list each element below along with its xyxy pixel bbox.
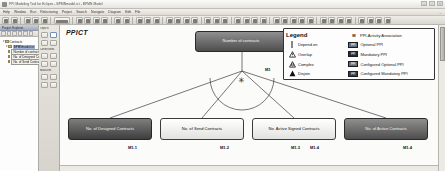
palette-tool-button[interactable]: [41, 53, 48, 59]
window-controls[interactable]: – □ ×: [421, 1, 443, 6]
explorer-tool-3[interactable]: [18, 31, 23, 36]
tree-item-label: Contracts: [10, 40, 23, 44]
toolbar-button-18[interactable]: [144, 17, 151, 24]
palette-section-header[interactable]: Measures: [40, 69, 58, 72]
toolbar-button-15[interactable]: [123, 17, 130, 24]
palette-tool-button[interactable]: [41, 32, 48, 38]
menu-item-refactoring[interactable]: Refactoring: [40, 10, 57, 14]
toolbar-button-41[interactable]: [320, 17, 327, 24]
toolbar-button-46[interactable]: [358, 17, 365, 24]
menu-item-project[interactable]: Project: [62, 10, 73, 14]
toolbar-button-9[interactable]: [76, 17, 83, 24]
toolbar-button-11[interactable]: [93, 17, 100, 24]
horizontal-scrollbar[interactable]: [60, 165, 438, 171]
toolbar-icon-31: [245, 19, 249, 23]
explorer-header: Project Explorer: [0, 25, 38, 31]
toolbar-button-31[interactable]: [243, 17, 250, 24]
explorer-tool-0[interactable]: [1, 31, 6, 36]
toolbar-button-0[interactable]: [2, 17, 9, 24]
toolbar-button-47[interactable]: [367, 17, 374, 24]
minimize-button[interactable]: –: [421, 1, 427, 6]
toolbar-button-12[interactable]: [101, 17, 108, 24]
legend-ppi-badge-icon: PPI: [348, 51, 358, 57]
menu-item-help[interactable]: Help: [3, 10, 10, 14]
toolbar-button-24[interactable]: [191, 17, 198, 24]
vertical-scrollbar-thumb[interactable]: [440, 27, 445, 61]
close-button[interactable]: ×: [437, 1, 443, 6]
palette-section-header[interactable]: Objects: [40, 27, 58, 30]
app-icon: [2, 2, 7, 7]
toolbar-button-30[interactable]: [234, 17, 241, 24]
palette-tool-button[interactable]: [50, 74, 57, 80]
toolbar-button-33[interactable]: [260, 17, 267, 24]
toolbar-button-22[interactable]: [174, 17, 181, 24]
toolbar-button-7[interactable]: [54, 17, 70, 24]
node-number-of-contracts[interactable]: Number of contracts: [195, 31, 287, 52]
palette-row: [41, 32, 57, 38]
toolbar-button-17[interactable]: [136, 17, 143, 24]
toolbar-button-27[interactable]: [213, 17, 220, 24]
toolbar-button-28[interactable]: [221, 17, 228, 24]
menu-item-edit[interactable]: Edit: [125, 10, 131, 14]
node-active-signed-contracts[interactable]: No. Active Signed Contracts: [252, 118, 336, 140]
node-send-contracts[interactable]: No. of Send Contracts: [160, 118, 244, 140]
toolbar-button-14[interactable]: [114, 17, 121, 24]
toolbar-button-44[interactable]: [345, 17, 352, 24]
palette-section-header[interactable]: Connections: [40, 48, 58, 51]
toolbar-icon-38: [300, 19, 304, 23]
palette-tool-button[interactable]: [50, 32, 57, 38]
explorer-tool-1[interactable]: [7, 31, 12, 36]
tree-item[interactable]: No. of Send Contracts: [2, 59, 38, 64]
toolbar-button-35[interactable]: [273, 17, 280, 24]
toolbar-button-5[interactable]: [41, 17, 48, 24]
toolbar-button-39[interactable]: [307, 17, 314, 24]
toolbar-button-1[interactable]: [11, 17, 18, 24]
menu-item-run[interactable]: Run: [30, 10, 36, 14]
menu-item-window[interactable]: Window: [14, 10, 26, 14]
toolbar-button-43[interactable]: [337, 17, 344, 24]
palette-tool-button[interactable]: [50, 40, 57, 46]
toolbar-button-48[interactable]: [375, 17, 382, 24]
toolbar-button-38[interactable]: [298, 17, 305, 24]
explorer-tool-2[interactable]: [12, 31, 17, 36]
toolbar-button-36[interactable]: [281, 17, 288, 24]
menu-item-navigate[interactable]: Navigate: [91, 10, 104, 14]
toolbar-icon-27: [215, 19, 219, 23]
toolbar[interactable]: [0, 16, 445, 25]
menu-overflow-icon[interactable]: ⌄: [439, 11, 442, 15]
explorer-tool-5[interactable]: [29, 31, 34, 36]
node-active-contracts[interactable]: No. of Active Contracts: [344, 118, 428, 140]
toolbar-button-23[interactable]: [183, 17, 190, 24]
menu-item-file[interactable]: File: [135, 10, 140, 14]
palette-tool-button[interactable]: [50, 82, 57, 88]
toolbar-button-49[interactable]: [384, 17, 391, 24]
node-designed-contracts[interactable]: No. of Designed Contracts: [68, 118, 152, 140]
palette-tool-button[interactable]: [41, 61, 48, 67]
project-tree[interactable]: ▾Contracts▾BPMNmodel.ictNumber of contra…: [0, 37, 38, 64]
toolbar-button-4[interactable]: [32, 17, 39, 24]
toolbar-button-10[interactable]: [84, 17, 91, 24]
toolbar-icon-43: [339, 19, 343, 23]
toolbar-icon-12: [103, 19, 107, 23]
palette-tool-button[interactable]: [50, 61, 57, 67]
menu-item-search[interactable]: Search: [76, 10, 87, 14]
toolbar-button-37[interactable]: [290, 17, 297, 24]
menu-item-diagram[interactable]: Diagram: [108, 10, 121, 14]
vertical-scrollbar[interactable]: [438, 25, 445, 171]
toolbar-button-21[interactable]: [166, 17, 173, 24]
toolbar-button-3[interactable]: [24, 17, 31, 24]
tree-node-icon: [5, 40, 9, 44]
toolbar-button-19[interactable]: [153, 17, 160, 24]
maximize-button[interactable]: □: [429, 1, 435, 6]
toolbar-button-32[interactable]: [251, 17, 258, 24]
explorer-tool-4[interactable]: [23, 31, 28, 36]
toolbar-button-42[interactable]: [328, 17, 335, 24]
palette-tool-button[interactable]: [41, 82, 48, 88]
palette-tool-button[interactable]: [41, 74, 48, 80]
palette-panel[interactable]: ObjectsConnectionsMeasures: [39, 25, 60, 171]
diagram-canvas[interactable]: PPICT Number of contracts ✳ No. of Desig…: [60, 25, 438, 171]
menu-bar[interactable]: HelpWindowRunRefactoringProjectSearchNav…: [0, 9, 445, 16]
toolbar-button-26[interactable]: [204, 17, 211, 24]
palette-tool-button[interactable]: [50, 53, 57, 59]
palette-tool-button[interactable]: [41, 40, 48, 46]
